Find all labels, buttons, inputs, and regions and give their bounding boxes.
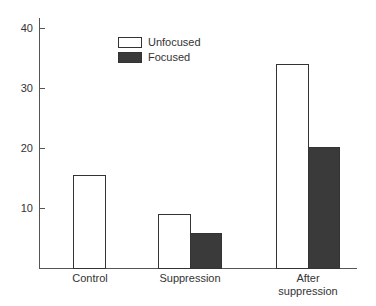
- category-label-after-line1: After: [268, 272, 348, 285]
- y-axis: [39, 18, 40, 269]
- legend-label-focused: Focused: [148, 51, 190, 63]
- legend-swatch-focused: [118, 52, 142, 63]
- y-tick-40: [40, 28, 45, 29]
- bar-after-suppression-unfocused: [276, 64, 309, 269]
- y-tick-label-30: 30: [9, 82, 33, 94]
- y-tick-label-10: 10: [9, 202, 33, 214]
- y-tick-20: [40, 148, 45, 149]
- y-tick-label-20: 20: [9, 142, 33, 154]
- bar-suppression-focused: [190, 233, 222, 269]
- category-label-after-line2: suppression: [268, 285, 348, 298]
- bar-after-suppression-focused: [308, 147, 340, 269]
- legend-swatch-unfocused: [118, 37, 142, 48]
- y-tick-10: [40, 208, 45, 209]
- bar-suppression-unfocused: [158, 214, 191, 269]
- y-tick-30: [40, 88, 45, 89]
- bar-chart: 40 30 20 10 Unfocused Focused Control Su…: [0, 0, 376, 306]
- y-tick-label-40: 40: [9, 22, 33, 34]
- legend-label-unfocused: Unfocused: [148, 36, 201, 48]
- bar-control-unfocused: [73, 175, 106, 269]
- category-label-suppression: Suppression: [150, 272, 230, 285]
- category-label-control: Control: [50, 272, 130, 285]
